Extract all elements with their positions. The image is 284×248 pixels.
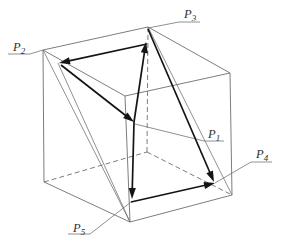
vector-arrowhead [129,188,136,199]
point-label-subscript: 3 [191,13,197,23]
vector-arrows [59,29,215,202]
vector-arrowhead [206,170,214,182]
point-label-P5: P5 [72,221,86,237]
cube-edge [148,27,230,73]
point-label-P2: P2 [12,40,26,56]
vector-arrow-line [134,51,145,122]
point-label-subscript: 2 [21,46,26,56]
point-labels: P1P2P3P4P5 [12,7,269,237]
hidden-cube-edges [44,27,232,195]
vector-arrow-line [68,44,147,61]
construction-line [148,27,232,195]
cube-edge [230,73,232,195]
point-label-P3: P3 [183,7,197,23]
point-label-P1: P1 [207,127,220,143]
figure-canvas: P1P2P3P4P5 [0,0,284,248]
vector-arrow-line [148,29,210,174]
leader-line-P4 [215,162,272,183]
construction-line [58,63,130,222]
hidden-edge [44,152,147,182]
cube-edge [43,50,44,182]
point-label-subscript: 4 [264,153,269,163]
cube-edge [44,182,130,222]
leader-lines [8,22,272,234]
vector-arrow-line [132,122,134,190]
construction-line [43,50,130,222]
vector-arrow-line [131,185,206,202]
vector-arrowhead [59,57,71,64]
point-label-subscript: 1 [216,133,221,143]
point-label-P4: P4 [255,147,269,163]
point-label-subscript: 5 [81,227,86,237]
vector-cube-diagram: P1P2P3P4P5 [0,0,284,248]
hidden-edge [147,27,148,152]
